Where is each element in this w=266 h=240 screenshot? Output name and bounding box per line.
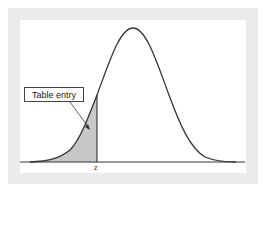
table-entry-callout: Table entry bbox=[24, 87, 84, 102]
z-axis-label: z bbox=[94, 164, 98, 171]
callout-arrow bbox=[70, 102, 89, 128]
shaded-area bbox=[30, 95, 97, 162]
